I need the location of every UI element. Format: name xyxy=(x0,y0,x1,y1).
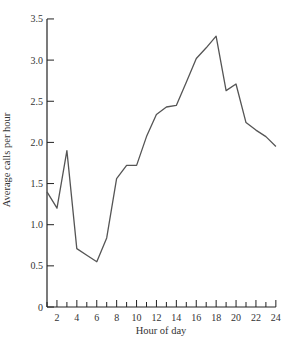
y-tick-label: 2.0 xyxy=(31,137,44,148)
x-tick-label: 4 xyxy=(74,312,79,323)
y-tick-label: 0 xyxy=(38,302,43,313)
x-tick-label: 20 xyxy=(231,312,241,323)
y-tick-label: 3.5 xyxy=(31,13,44,24)
x-tick-label: 22 xyxy=(251,312,261,323)
y-tick-label: 3.0 xyxy=(31,55,44,66)
y-axis-title: Average calls per hour xyxy=(1,112,12,207)
x-tick-label: 10 xyxy=(132,312,142,323)
x-tick-label: 6 xyxy=(94,312,99,323)
x-tick-label: 24 xyxy=(271,312,281,323)
x-tick-label: 12 xyxy=(151,312,161,323)
y-tick-label: 0.5 xyxy=(31,260,44,271)
y-tick-label: 1.5 xyxy=(31,178,44,189)
y-tick-label: 2.5 xyxy=(31,96,44,107)
data-series-line xyxy=(47,36,276,262)
x-tick-label: 18 xyxy=(211,312,221,323)
x-tick-label: 14 xyxy=(171,312,181,323)
x-axis-title: Hour of day xyxy=(136,325,187,336)
line-chart: 00.51.01.52.02.53.03.5 24681012141618202… xyxy=(0,0,296,353)
x-axis-ticks: 24681012141618202224 xyxy=(47,300,281,323)
axes xyxy=(47,19,276,307)
x-tick-label: 8 xyxy=(114,312,119,323)
x-tick-label: 16 xyxy=(191,312,201,323)
y-tick-label: 1.0 xyxy=(31,219,44,230)
x-tick-label: 2 xyxy=(54,312,59,323)
y-axis-ticks: 00.51.01.52.02.53.03.5 xyxy=(31,13,55,312)
